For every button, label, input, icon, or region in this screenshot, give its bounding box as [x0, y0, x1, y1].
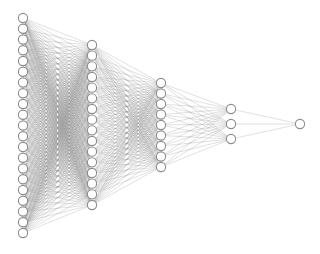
neuron-node [156, 120, 165, 129]
neuron-node [87, 158, 96, 167]
neuron-node [18, 228, 27, 237]
edges-input-layer-to-hidden-layer-1 [23, 18, 92, 233]
edges-hidden-layer-3-to-output-layer [231, 109, 300, 139]
neuron-node [18, 24, 27, 33]
neuron-node [18, 121, 27, 130]
neuron-node [156, 141, 165, 150]
neuron-node [87, 72, 96, 81]
neuron-node [226, 104, 235, 113]
neuron-node [18, 185, 27, 194]
neuron-node [226, 134, 235, 143]
edges-hidden-layer-2-to-hidden-layer-3 [161, 83, 231, 167]
neuron-node [87, 168, 96, 177]
neuron-node [18, 164, 27, 173]
neuron-node [156, 78, 165, 87]
neuron-node [156, 152, 165, 161]
neural-network-diagram [0, 0, 320, 254]
neuron-node [87, 94, 96, 103]
neuron-node [18, 13, 27, 22]
neuron-node [156, 162, 165, 171]
neuron-node [18, 67, 27, 76]
neuron-node [18, 56, 27, 65]
neuron-node [18, 153, 27, 162]
neuron-node [87, 62, 96, 71]
neuron-node [87, 83, 96, 92]
neuron-node [87, 104, 96, 113]
neuron-node [18, 196, 27, 205]
neuron-node [87, 190, 96, 199]
neuron-node [156, 131, 165, 140]
neuron-node [18, 207, 27, 216]
neuron-node [87, 115, 96, 124]
neuron-node [156, 110, 165, 119]
neuron-node [18, 35, 27, 44]
neuron-node [295, 119, 304, 128]
neuron-node [18, 175, 27, 184]
neuron-node [18, 99, 27, 108]
hidden-layer-3 [226, 104, 235, 143]
neuron-node [18, 89, 27, 98]
neuron-node [87, 51, 96, 60]
neuron-node [156, 89, 165, 98]
neuron-node [87, 147, 96, 156]
edges-hidden-layer-1-to-hidden-layer-2 [92, 45, 161, 205]
neuron-node [156, 99, 165, 108]
neuron-node [87, 136, 96, 145]
neuron-node [226, 119, 235, 128]
neuron-node [18, 218, 27, 227]
network-canvas [0, 0, 320, 254]
neuron-node [87, 200, 96, 209]
neuron-node [18, 142, 27, 151]
neuron-node [18, 110, 27, 119]
neuron-node [18, 132, 27, 141]
neuron-node [87, 40, 96, 49]
hidden-layer-2 [156, 78, 165, 171]
input-layer [18, 13, 27, 237]
neuron-node [18, 78, 27, 87]
output-layer [295, 119, 304, 128]
neuron-node [18, 46, 27, 55]
neuron-node [87, 126, 96, 135]
neuron-node [87, 179, 96, 188]
